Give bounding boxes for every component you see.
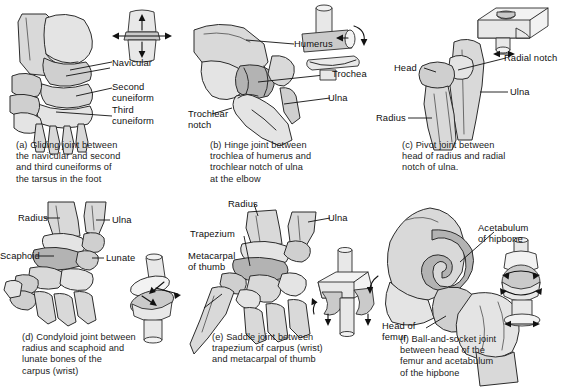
label-radius-d: Radius: [18, 212, 48, 223]
label-humerus: Humerus: [294, 38, 333, 49]
label-ulna-d: Ulna: [112, 214, 132, 225]
condyloid-model: [120, 254, 192, 344]
panel-c-pivot-joint: Head Radial notch Ulna Radius (c) Pivot …: [376, 0, 563, 196]
panel-a-gliding-joint: Navicular Second cuneiform Third cuneifo…: [0, 0, 188, 196]
label-radius-c: Radius: [376, 112, 406, 123]
label-metacarpal-of-thumb: Metacarpal of thumb: [188, 250, 235, 272]
pivot-model: [470, 4, 558, 56]
caption-a: (a) Gliding joint between the navicular …: [16, 140, 188, 185]
caption-f: (f) Ball-and-socket joint between head o…: [400, 334, 562, 379]
ball-and-socket-model: [488, 238, 563, 334]
label-scaphoid: Scaphoid: [0, 250, 40, 261]
label-third-cuneiform: Third cuneiform: [112, 104, 154, 126]
label-lunate: Lunate: [106, 252, 135, 263]
label-ulna-e: Ulna: [328, 212, 348, 223]
label-acetabulum-of-hipbone: Acetabulum of hipbone: [478, 222, 528, 244]
saddle-model: [310, 248, 386, 340]
panel-f-ball-and-socket-joint: Acetabulum of hipbone Head of femur (f) …: [376, 196, 563, 392]
label-navicular: Navicular: [112, 57, 152, 68]
panel-d-condyloid-joint: Radius Ulna Scaphoid Lunate (d) Condyloi…: [0, 196, 188, 392]
label-trapezium: Trapezium: [190, 228, 235, 239]
gliding-motion-arrows: [118, 18, 166, 54]
label-ulna: Ulna: [328, 92, 348, 103]
label-head: Head: [394, 62, 417, 73]
label-trochlea: Trochea: [332, 68, 367, 79]
label-trochlear-notch: Trochlear notch: [188, 108, 228, 130]
page-bottom-cut-text: [0, 387, 563, 392]
panel-b-hinge-joint: Humerus Trochea Ulna Trochlear notch (b)…: [188, 0, 376, 196]
label-radial-notch: Radial notch: [504, 52, 557, 63]
synovial-joints-figure: Navicular Second cuneiform Third cuneifo…: [0, 0, 563, 392]
label-second-cuneiform: Second cuneiform: [112, 81, 154, 103]
label-radius-e: Radius: [228, 198, 258, 209]
caption-d: (d) Condyloid joint between radius and s…: [22, 332, 188, 377]
panel-e-saddle-joint: Radius Ulna Trapezium Metacarpal of thum…: [188, 196, 376, 392]
caption-c: (c) Pivot joint between head of radius a…: [402, 140, 562, 174]
caption-b: (b) Hinge joint between trochlea of hume…: [210, 140, 376, 185]
caption-e: (e) Saddle joint between trapezium of ca…: [212, 332, 376, 366]
label-ulna-c: Ulna: [510, 86, 530, 97]
